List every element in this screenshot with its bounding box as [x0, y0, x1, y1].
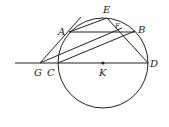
geometry-diagram: A B E F G C K D [0, 0, 169, 127]
segment-gb [40, 28, 122, 63]
label-d: D [149, 58, 158, 69]
label-c: C [47, 67, 55, 78]
label-a: A [57, 26, 65, 37]
label-e: E [102, 4, 111, 15]
center-point-k [101, 61, 104, 64]
label-g: G [34, 67, 42, 78]
label-k: K [98, 67, 107, 78]
segment-cb [58, 31, 135, 63]
label-b: B [137, 24, 145, 35]
